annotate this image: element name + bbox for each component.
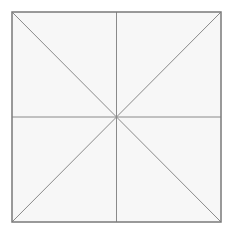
diagram-lines xyxy=(12,12,221,222)
diagram-canvas xyxy=(0,0,231,235)
